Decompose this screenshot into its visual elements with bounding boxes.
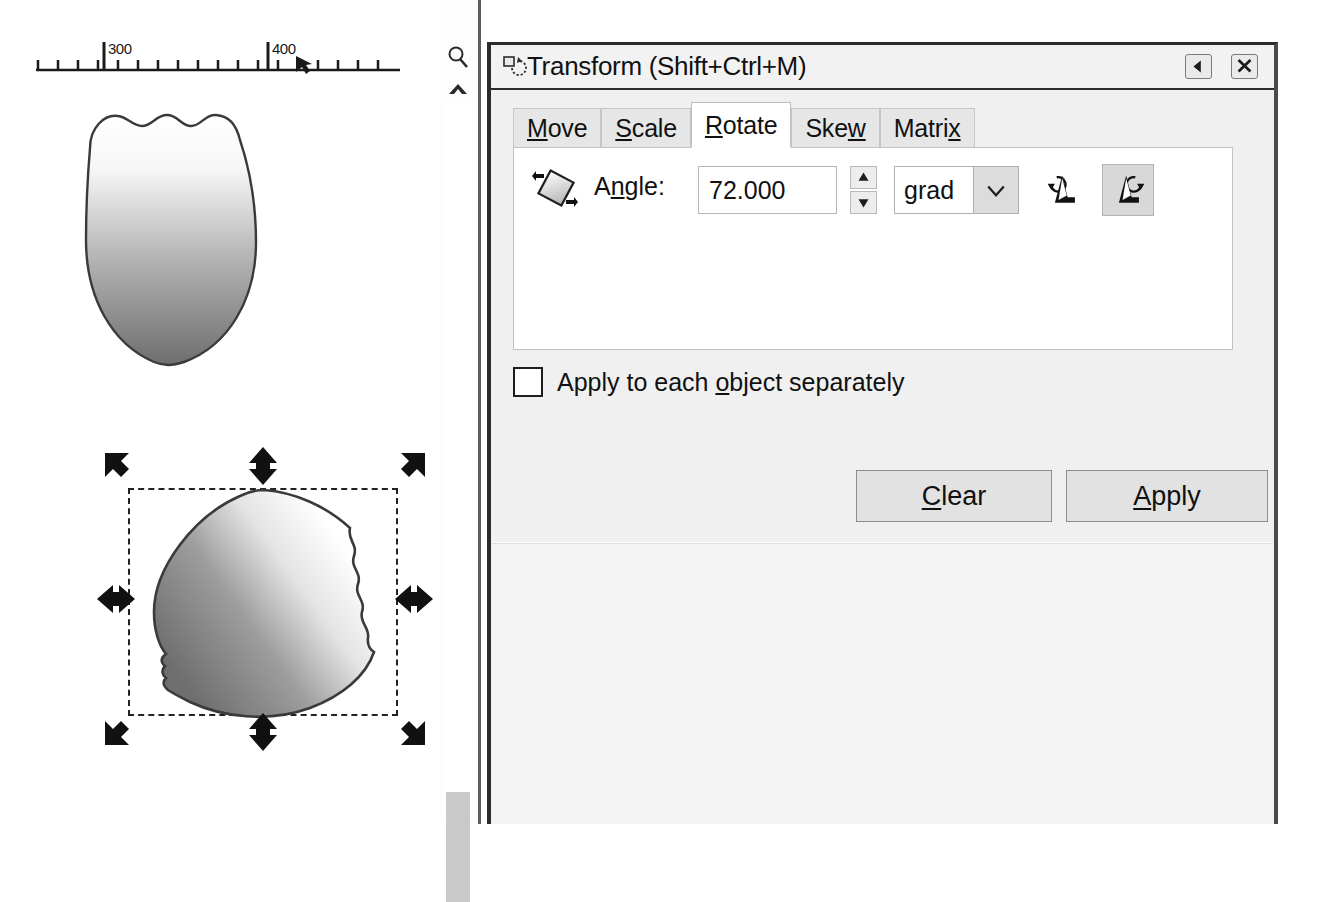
- transform-tabs: Move Scale Rotate Skew Matrix: [513, 102, 975, 148]
- angle-input[interactable]: 72.000: [698, 166, 837, 214]
- handle-middle-right: [395, 585, 433, 613]
- handle-bottom-left: [105, 721, 129, 745]
- horizontal-ruler: [0, 38, 440, 76]
- ruler-label-400: 400: [272, 40, 296, 57]
- handle-middle-left: [97, 585, 135, 613]
- angle-label: Angle:: [594, 172, 665, 201]
- apply-each-object-label: Apply to each object separately: [557, 368, 904, 397]
- selection-handles[interactable]: [95, 445, 435, 765]
- spinner-down-icon[interactable]: [850, 191, 877, 214]
- clear-button[interactable]: Clear: [856, 470, 1052, 522]
- canvas-side-strip: [440, 0, 486, 824]
- rotate-clockwise-icon: [1108, 170, 1148, 210]
- transform-rotate-icon: [501, 53, 527, 79]
- rotate-tab-panel: Angle: 72.000 grad: [513, 147, 1233, 350]
- tab-scale[interactable]: Scale: [601, 108, 691, 148]
- angle-stepper: [850, 166, 877, 214]
- dock-button[interactable]: [1185, 54, 1212, 79]
- rotate-object-icon: [530, 166, 582, 214]
- drawing-canvas[interactable]: 300 400: [0, 0, 440, 824]
- scrollbar-thumb[interactable]: [446, 792, 470, 902]
- magnifier-icon[interactable]: [445, 44, 471, 70]
- rotate-clockwise-button[interactable]: [1102, 164, 1154, 216]
- handle-top-right: [401, 453, 425, 477]
- tab-rotate[interactable]: Rotate: [691, 102, 791, 148]
- tab-move[interactable]: Move: [513, 108, 601, 148]
- arrow-left-icon: [1186, 55, 1211, 78]
- handle-top-left: [105, 453, 129, 477]
- dialog-title: Transform (Shift+Ctrl+M): [527, 51, 806, 82]
- ruler-cursor-marker: [296, 56, 312, 74]
- handle-bottom-center: [249, 713, 277, 751]
- tab-skew[interactable]: Skew: [791, 108, 879, 148]
- canvas-scrollbar[interactable]: [442, 104, 472, 822]
- close-x-icon: [1232, 55, 1257, 78]
- apply-each-object-checkbox[interactable]: [513, 367, 543, 397]
- rotate-counterclockwise-icon: [1044, 170, 1084, 210]
- apply-button[interactable]: Apply: [1066, 470, 1268, 522]
- chevron-down-icon[interactable]: [973, 167, 1018, 213]
- apply-each-object-row[interactable]: Apply to each object separately: [513, 367, 904, 397]
- handle-bottom-right: [401, 721, 425, 745]
- unit-select-value: grad: [895, 167, 973, 213]
- handle-top-center: [249, 447, 277, 485]
- spinner-up-icon[interactable]: [850, 166, 877, 189]
- unit-select[interactable]: grad: [894, 166, 1019, 214]
- tab-matrix[interactable]: Matrix: [880, 108, 975, 148]
- rotate-counterclockwise-button[interactable]: [1038, 164, 1090, 216]
- ruler-label-300: 300: [108, 40, 132, 57]
- transform-dialog: Transform (Shift+Ctrl+M) Move Scale Ro: [487, 42, 1278, 824]
- dialog-empty-area: [492, 544, 1273, 824]
- close-button[interactable]: [1231, 54, 1258, 79]
- chevron-up-icon[interactable]: [445, 78, 471, 100]
- dialog-titlebar: Transform (Shift+Ctrl+M): [491, 45, 1274, 90]
- leaf-shape-original[interactable]: [60, 100, 290, 390]
- canvas-dialog-divider: [478, 0, 481, 824]
